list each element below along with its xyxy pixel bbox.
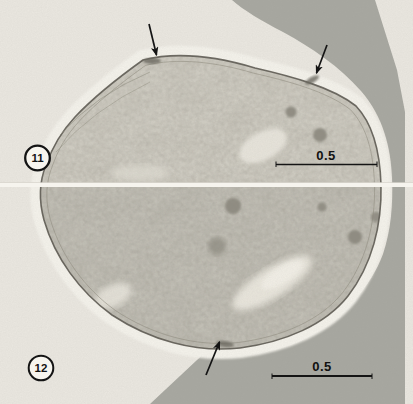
panel-seam [0,183,413,188]
figure-12-badge: 12 [29,356,54,381]
figure-12-number: 12 [35,362,48,374]
panel-seam-edge [0,182,413,183]
film-grain [0,0,413,404]
scale-bar-label: 0.5 [312,359,332,374]
scale-bar-label: 0.5 [316,148,336,163]
micrograph-image: 11 12 0.5 0.5 [0,0,413,404]
figure-11-number: 11 [31,152,44,164]
micrograph-figure: 11 12 0.5 0.5 [0,0,413,404]
figure-11-badge: 11 [25,146,50,171]
